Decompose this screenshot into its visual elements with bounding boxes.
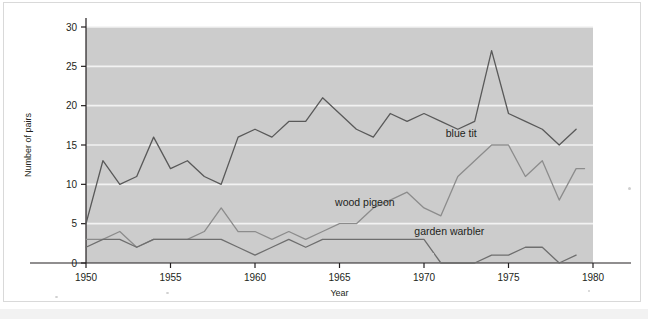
paper-speck <box>628 187 631 190</box>
paper-speck <box>432 253 434 255</box>
y-axis-tick-label: 15 <box>66 140 78 151</box>
paper-speck <box>588 290 590 292</box>
series-annotation-garden-warbler: garden warbler <box>414 225 485 237</box>
y-axis-tick-label: 20 <box>66 100 78 111</box>
x-axis-tick-label: 1965 <box>328 272 351 283</box>
x-axis-tick-label: 1980 <box>582 272 605 283</box>
line-chart: 0510152025301950195519601965197019751980… <box>0 0 648 319</box>
x-axis-tick-label: 1975 <box>497 272 520 283</box>
x-axis-tick-label: 1960 <box>244 272 267 283</box>
y-axis-tick-label: 0 <box>71 258 77 269</box>
x-axis-tick-label: 1955 <box>159 272 182 283</box>
y-axis-tick-label: 5 <box>71 218 77 229</box>
y-axis-tick-label: 25 <box>66 61 78 72</box>
series-annotation-blue-tit: blue tit <box>446 127 477 139</box>
x-axis-tick-label: 1950 <box>75 272 98 283</box>
y-axis-tick-label: 10 <box>66 179 78 190</box>
x-axis-tick-label: 1970 <box>413 272 436 283</box>
y-axis-tick-label: 30 <box>66 22 78 33</box>
paper-speck <box>55 296 58 298</box>
y-axis-title: Number of pairs <box>23 112 33 177</box>
figure-container: 0510152025301950195519601965197019751980… <box>0 0 648 319</box>
series-annotation-wood-pigeon: wood pigeon <box>334 196 395 208</box>
x-axis-title: Year <box>330 288 348 298</box>
paper-speck <box>166 292 169 294</box>
